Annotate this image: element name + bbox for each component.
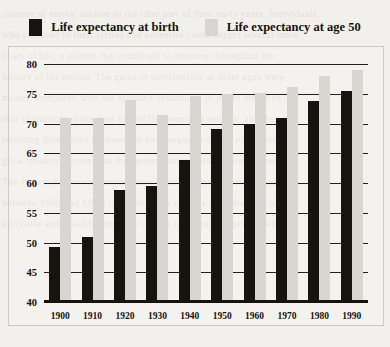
chart-legend: Life expectancy at birth Life expectancy… bbox=[0, 19, 390, 36]
legend-swatch-birth bbox=[29, 19, 42, 36]
x-axis-tick-1990: 1990 bbox=[342, 311, 361, 321]
bar-1970-birth bbox=[276, 118, 287, 302]
x-axis-tick-1940: 1940 bbox=[180, 311, 199, 321]
bar-1910-birth bbox=[82, 237, 93, 302]
bar-1990-birth bbox=[341, 91, 352, 302]
y-axis-tick-50: 50 bbox=[27, 237, 38, 248]
bar-group-1910: 1910 bbox=[76, 64, 108, 302]
x-axis-tick-1960: 1960 bbox=[245, 311, 264, 321]
bar-group-1970: 1970 bbox=[271, 64, 303, 302]
x-axis-tick-1970: 1970 bbox=[277, 311, 296, 321]
bar-1960-age50 bbox=[255, 93, 266, 302]
x-axis-line bbox=[44, 300, 368, 302]
bar-1930-birth bbox=[146, 186, 157, 302]
legend-item-age50: Life expectancy at age 50 bbox=[205, 19, 361, 36]
y-axis-tick-80: 80 bbox=[27, 59, 38, 70]
y-axis-tick-65: 65 bbox=[27, 148, 38, 159]
bar-1970-age50 bbox=[287, 87, 298, 302]
bar-1960-birth bbox=[244, 124, 255, 303]
bar-1950-birth bbox=[211, 129, 222, 302]
chart-figure: Life expectancy at birth Life expectancy… bbox=[0, 0, 390, 347]
x-axis-tick-1980: 1980 bbox=[310, 311, 329, 321]
legend-swatch-age50 bbox=[205, 19, 218, 36]
plot-area: 404550556065707580 190019101920193019401… bbox=[44, 64, 368, 302]
bar-1950-age50 bbox=[222, 94, 233, 302]
bar-1990-age50 bbox=[352, 70, 363, 302]
y-axis-tick-70: 70 bbox=[27, 118, 38, 129]
y-axis-tick-40: 40 bbox=[27, 297, 38, 308]
bar-1920-age50 bbox=[125, 100, 136, 302]
bar-group-1960: 1960 bbox=[238, 64, 270, 302]
bar-1900-birth bbox=[49, 247, 60, 302]
x-axis-tick-1930: 1930 bbox=[148, 311, 167, 321]
bar-1920-birth bbox=[114, 190, 125, 302]
y-axis-tick-45: 45 bbox=[27, 267, 38, 278]
y-axis-tick-60: 60 bbox=[27, 178, 38, 189]
bar-1980-birth bbox=[308, 101, 319, 302]
y-axis-tick-55: 55 bbox=[27, 207, 38, 218]
legend-label-birth: Life expectancy at birth bbox=[51, 20, 178, 35]
bar-group-1940: 1940 bbox=[174, 64, 206, 302]
bar-1910-age50 bbox=[93, 118, 104, 302]
bar-1940-birth bbox=[179, 160, 190, 302]
bar-group-1950: 1950 bbox=[206, 64, 238, 302]
x-axis-tick-1910: 1910 bbox=[83, 311, 102, 321]
x-axis-tick-1920: 1920 bbox=[115, 311, 134, 321]
legend-item-birth: Life expectancy at birth bbox=[29, 19, 178, 36]
x-axis-tick-1900: 1900 bbox=[51, 311, 70, 321]
legend-label-age50: Life expectancy at age 50 bbox=[227, 20, 361, 35]
y-axis-tick-75: 75 bbox=[27, 88, 38, 99]
bar-1930-age50 bbox=[157, 115, 168, 302]
gridline-40: 40 bbox=[44, 302, 368, 303]
bar-1940-age50 bbox=[190, 96, 201, 302]
bar-1980-age50 bbox=[319, 76, 330, 302]
bar-group-1900: 1900 bbox=[44, 64, 76, 302]
bar-group-1990: 1990 bbox=[336, 64, 368, 302]
bar-group-1920: 1920 bbox=[109, 64, 141, 302]
bar-group-1930: 1930 bbox=[141, 64, 173, 302]
x-axis-tick-1950: 1950 bbox=[213, 311, 232, 321]
bar-1900-age50 bbox=[60, 118, 71, 302]
bar-group-1980: 1980 bbox=[303, 64, 335, 302]
